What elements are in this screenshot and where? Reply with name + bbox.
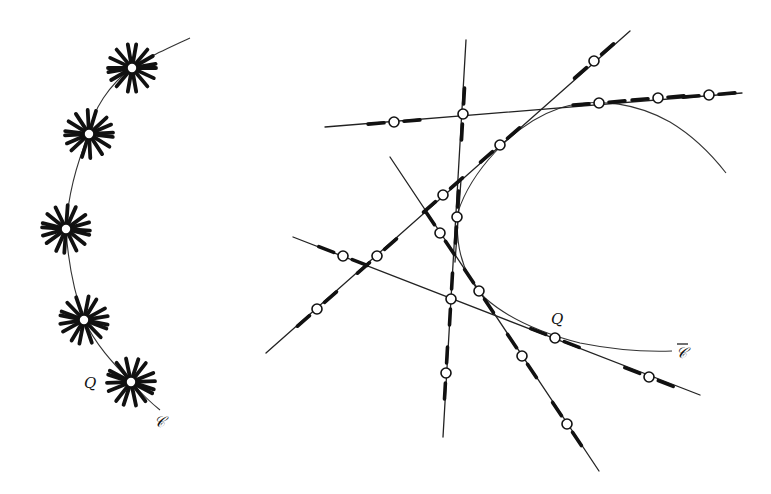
curve-label-c-bar: 𝒞 bbox=[676, 344, 691, 362]
curve-label-c: 𝒞 bbox=[154, 413, 169, 431]
star-element bbox=[107, 359, 155, 406]
point-label-q-dual: Q bbox=[551, 310, 563, 328]
point-node bbox=[589, 56, 599, 66]
dual-curve-lower bbox=[457, 212, 672, 351]
star-center bbox=[127, 63, 137, 73]
point-node bbox=[653, 93, 663, 103]
curve-label-c-dual: 𝒞 bbox=[676, 344, 691, 362]
star-center bbox=[61, 224, 71, 234]
point-node bbox=[435, 228, 445, 238]
point-node bbox=[438, 190, 448, 200]
point-node bbox=[594, 98, 604, 108]
star-element bbox=[108, 44, 156, 91]
point-node bbox=[441, 368, 451, 378]
point-label-q: Q bbox=[84, 374, 96, 392]
right-panel: Q 𝒞 bbox=[266, 31, 742, 471]
point-node bbox=[452, 212, 462, 222]
point-node bbox=[704, 90, 714, 100]
star-element bbox=[65, 110, 113, 158]
line-B bbox=[325, 93, 742, 127]
point-node bbox=[446, 294, 456, 304]
point-node bbox=[644, 372, 654, 382]
dual-curve-upper bbox=[458, 103, 726, 212]
point-node bbox=[517, 351, 527, 361]
point-node bbox=[372, 251, 382, 261]
diagram-canvas: Q 𝒞 Q 𝒞 bbox=[0, 0, 771, 494]
star-center bbox=[126, 377, 136, 387]
star-element bbox=[60, 296, 107, 343]
star-center bbox=[79, 315, 89, 325]
line-element-segments bbox=[298, 44, 735, 446]
point-node bbox=[562, 419, 572, 429]
point-node bbox=[550, 333, 560, 343]
star-elements bbox=[42, 44, 156, 405]
point-node bbox=[495, 140, 505, 150]
point-node bbox=[389, 117, 399, 127]
left-panel: Q 𝒞 bbox=[42, 38, 190, 431]
point-node bbox=[458, 109, 468, 119]
point-node bbox=[474, 286, 484, 296]
star-center bbox=[84, 129, 94, 139]
point-node bbox=[338, 251, 348, 261]
star-element bbox=[42, 205, 90, 253]
point-node bbox=[312, 304, 322, 314]
